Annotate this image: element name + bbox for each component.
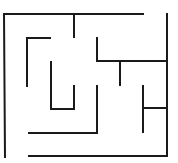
maze-wall <box>4 14 5 157</box>
maze <box>0 0 178 163</box>
